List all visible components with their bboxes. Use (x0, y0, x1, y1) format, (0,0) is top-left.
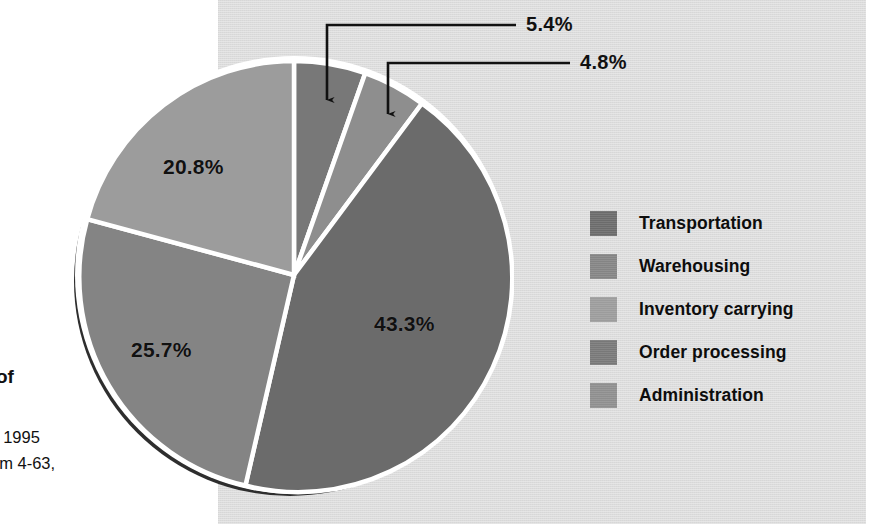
slice-label-warehousing: 25.7% (131, 338, 192, 362)
slice-label-transportation: 43.3% (374, 312, 435, 336)
legend-item-order-processing[interactable]: Order processing (590, 337, 850, 368)
legend-item-administration[interactable]: Administration (590, 380, 850, 411)
legend-swatch-administration (590, 383, 617, 408)
caption-bold-fragment: of (0, 366, 14, 388)
callout-label-order-processing: 5.4% (526, 13, 573, 36)
legend-item-inventory-carrying[interactable]: Inventory carrying (590, 294, 850, 325)
legend-item-warehousing[interactable]: Warehousing (590, 251, 850, 282)
legend-swatch-transportation (590, 211, 617, 236)
callout-label-administration: 4.8% (580, 51, 627, 74)
pie-svg (74, 55, 514, 497)
legend-label-order-processing: Order processing (639, 342, 786, 363)
caption-source-line-1: , 1995 (0, 428, 40, 447)
legend-label-transportation: Transportation (639, 213, 763, 234)
legend-item-transportation[interactable]: Transportation (590, 208, 850, 239)
pie-chart (74, 55, 514, 497)
legend-label-warehousing: Warehousing (639, 256, 750, 277)
legend-label-administration: Administration (639, 385, 764, 406)
legend-swatch-order-processing (590, 340, 617, 365)
legend-swatch-inventory-carrying (590, 297, 617, 322)
pie-chart-figure: 43.3% 25.7% 20.8% 5.4% 4.8% Transportati… (0, 0, 880, 524)
caption-source-line-2: um 4-63, (0, 454, 55, 473)
slice-label-inventory-carrying: 20.8% (163, 155, 224, 179)
legend: Transportation Warehousing Inventory car… (590, 208, 850, 411)
legend-swatch-warehousing (590, 254, 617, 279)
legend-label-inventory-carrying: Inventory carrying (639, 299, 794, 320)
